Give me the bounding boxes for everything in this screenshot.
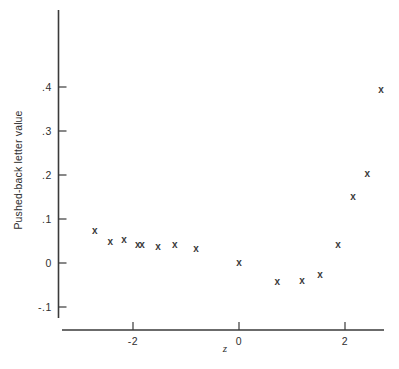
data-point: x <box>350 191 356 202</box>
x-tick-label: -2 <box>128 335 139 347</box>
data-point: x <box>236 257 242 268</box>
y-tick-label: .4 <box>42 81 52 93</box>
data-point: x <box>274 276 280 287</box>
y-tick-label: .1 <box>42 213 52 225</box>
y-axis-label: Pushed-back letter value <box>12 110 24 229</box>
data-point: x <box>193 243 199 254</box>
data-point-group: xxxxxxxxxxxxxxxx <box>92 84 384 288</box>
data-point: x <box>335 239 341 250</box>
data-point: x <box>172 239 178 250</box>
data-point: x <box>139 239 145 250</box>
y-tick-group: -.10.1.2.3.4 <box>38 81 67 313</box>
x-tick-group: -202 <box>128 322 349 347</box>
plot-canvas: -.10.1.2.3.4 -202 xxxxxxxxxxxxxxxx z Pus… <box>0 0 399 369</box>
y-tick-label: .2 <box>42 169 52 181</box>
data-point: x <box>155 241 161 252</box>
data-point: x <box>317 269 323 280</box>
data-point: x <box>364 168 370 179</box>
x-axis-label: z <box>222 342 228 354</box>
data-point: x <box>378 84 384 95</box>
data-point: x <box>121 234 127 245</box>
scatter-plot-figure: -.10.1.2.3.4 -202 xxxxxxxxxxxxxxxx z Pus… <box>0 0 399 369</box>
y-tick-label: -.1 <box>38 301 52 313</box>
data-point: x <box>92 225 98 236</box>
x-tick-label: 0 <box>236 335 242 347</box>
x-tick-label: 2 <box>342 335 348 347</box>
y-tick-label: 0 <box>46 257 52 269</box>
y-tick-label: .3 <box>42 125 52 137</box>
data-point: x <box>299 275 305 286</box>
data-point: x <box>107 236 113 247</box>
